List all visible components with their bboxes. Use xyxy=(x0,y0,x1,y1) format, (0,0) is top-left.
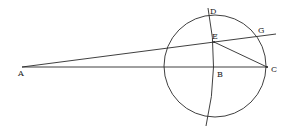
geometry-diagram: A B C D E G xyxy=(0,0,292,135)
label-D: D xyxy=(210,7,216,16)
point-C-dot xyxy=(266,66,268,68)
diagram-svg: A B C D E G xyxy=(0,0,292,135)
label-A: A xyxy=(17,69,24,78)
label-C: C xyxy=(271,65,277,74)
label-G: G xyxy=(258,26,264,35)
label-E: E xyxy=(212,32,218,41)
line-AEG xyxy=(22,34,276,67)
point-E-dot xyxy=(213,41,215,43)
label-B: B xyxy=(217,70,223,79)
line-EC xyxy=(214,42,267,67)
circle xyxy=(164,15,266,117)
